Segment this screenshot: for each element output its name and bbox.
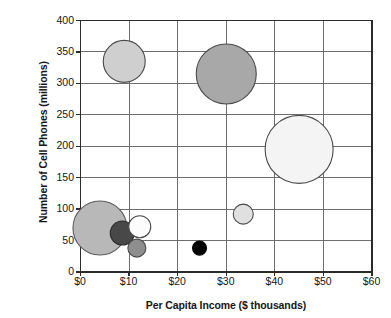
bubble-light-gray-upper-left xyxy=(103,40,145,82)
bubble-chart: Number of Cell Phones (millions) Per Cap… xyxy=(0,0,391,318)
bubble-medium-gray-bottom-left xyxy=(128,239,146,257)
bubble-white-large-right xyxy=(265,115,333,183)
bubble-light-small-center-right xyxy=(233,204,253,224)
bubble-black-bottom-center xyxy=(193,241,207,255)
plot-area xyxy=(0,0,391,318)
bubble-medium-gray-upper-center xyxy=(196,44,256,104)
bubble-white-lower-left xyxy=(129,216,151,238)
